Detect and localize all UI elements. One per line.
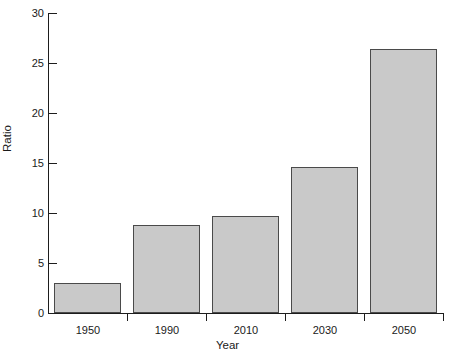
plot-area: [48, 13, 443, 313]
bar-1990: [133, 225, 200, 313]
y-tick-label: 10: [0, 208, 53, 219]
y-tick-label: 20: [0, 108, 53, 119]
x-tick-label: 2030: [285, 324, 365, 336]
y-axis-title: Ratio: [1, 89, 14, 189]
bar-2050: [370, 49, 437, 313]
y-tick-label: 25: [0, 58, 53, 69]
bar-2030: [291, 167, 358, 313]
y-tick-label: 5: [0, 258, 53, 269]
y-tick-label: 30: [0, 8, 53, 19]
x-tick-mark: [364, 314, 365, 321]
x-tick-mark: [285, 314, 286, 321]
x-tick-mark: [127, 314, 128, 321]
x-tick-mark: [443, 314, 444, 321]
x-tick-mark: [206, 314, 207, 321]
bar-1950: [54, 283, 121, 313]
x-tick-label: 1990: [127, 324, 207, 336]
y-tick-label: 0: [0, 308, 53, 319]
y-tick-label: 15: [0, 158, 53, 169]
bar-2010: [212, 216, 279, 313]
bar-chart-figure: Ratio Year 051015202530 1950199020102030…: [0, 0, 455, 362]
x-tick-label: 2010: [206, 324, 286, 336]
x-axis-line: [48, 313, 444, 314]
x-tick-label: 1950: [48, 324, 128, 336]
x-tick-label: 2050: [364, 324, 444, 336]
x-axis-title: Year: [0, 339, 455, 352]
